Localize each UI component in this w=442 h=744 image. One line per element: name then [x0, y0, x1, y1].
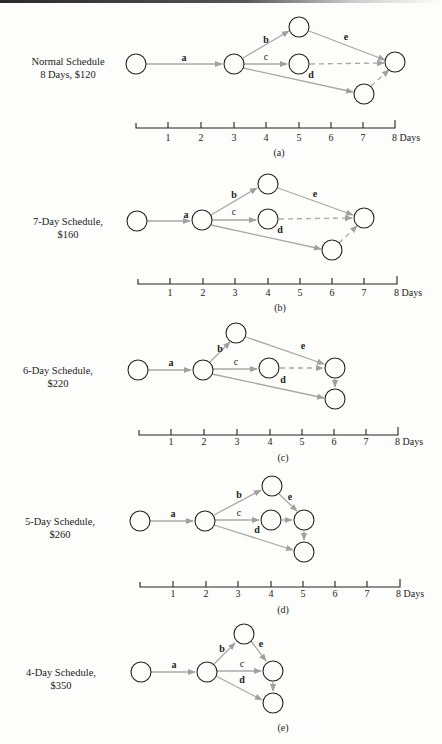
node-end [325, 358, 345, 378]
panel-c-title-line1: 6-Day Schedule, [23, 365, 93, 376]
tick-label: 5 [297, 132, 302, 143]
edge-label-d: d [254, 524, 260, 535]
edge-label-d: d [280, 374, 286, 385]
node-start [128, 360, 148, 380]
tick-label: 7 [365, 588, 370, 599]
tick-label: 8 Days [396, 588, 424, 599]
panel-a-title-line1: Normal Schedule [31, 56, 105, 67]
tick-label: 2 [201, 287, 206, 298]
node-2 [224, 54, 244, 74]
tick-label: 4 [264, 132, 269, 143]
time-axis-b: 1 2 3 4 5 6 7 8 Days [138, 276, 422, 298]
node-end [354, 208, 374, 228]
edge-label-b: b [219, 643, 225, 654]
time-axis-d: 1 2 3 4 5 6 7 8 Days [140, 579, 424, 599]
tick-label: 6 [333, 588, 338, 599]
node-end [263, 661, 283, 681]
panel-e: 4-Day Schedule, $350 a b c d e (e) [26, 624, 289, 734]
edge-label-e: e [259, 638, 264, 649]
node-bottom [294, 542, 314, 562]
tick-label: 8 Days [395, 436, 423, 447]
tick-label: 5 [300, 436, 305, 447]
edge-label-d: d [239, 674, 245, 685]
tick-label: 1 [168, 287, 173, 298]
tick-label: 6 [330, 287, 335, 298]
node-2 [192, 210, 212, 230]
edge-label-b: b [263, 34, 269, 45]
tick-label: 3 [235, 436, 240, 447]
edge-label-b: b [236, 489, 242, 500]
tick-label: 4 [268, 436, 273, 447]
tick-label: 5 [298, 287, 303, 298]
edge-label-e: e [313, 188, 318, 199]
tick-label: 4 [266, 287, 271, 298]
edge-label-d: d [277, 224, 283, 235]
node-bottom [263, 693, 283, 713]
edge-label-e: e [288, 491, 293, 502]
schedule-crashing-diagram: Normal Schedule 8 Days, $120 a b c d e 1 [0, 0, 442, 744]
tick-label: 7 [361, 132, 366, 143]
time-axis-c: 1 2 3 4 5 6 7 8 Days [139, 427, 423, 447]
node-2 [197, 662, 217, 682]
node-start [131, 662, 151, 682]
tick-label: 3 [236, 588, 241, 599]
node-mid [261, 510, 281, 530]
panel-b-title-line2: $160 [58, 229, 79, 240]
node-start [126, 54, 146, 74]
tick-label: 1 [169, 436, 174, 447]
dummy-edge-mid-end [279, 218, 352, 219]
node-bottom [322, 240, 342, 260]
tick-label: 4 [269, 588, 274, 599]
node-top [234, 624, 254, 644]
tick-label: 1 [166, 132, 171, 143]
tick-label: 2 [204, 588, 209, 599]
dummy-edge-mid-end [310, 63, 384, 64]
tick-label: 1 [171, 588, 176, 599]
panel-e-title-line2: $350 [51, 680, 72, 691]
node-bottom [325, 389, 345, 409]
panel-c: 6-Day Schedule, $220 a b c d e 1 2 [23, 323, 423, 464]
node-bottom [354, 84, 374, 104]
node-2 [195, 511, 215, 531]
tick-label: 8 Days [394, 287, 422, 298]
node-mid [258, 209, 278, 229]
node-top [258, 174, 278, 194]
time-axis-a: 1 2 3 4 5 6 7 8 Days [136, 120, 420, 143]
panel-e-caption: (e) [277, 722, 288, 734]
node-2 [193, 360, 213, 380]
edge-label-a: a [169, 357, 174, 368]
node-top [262, 476, 282, 496]
node-top [226, 323, 246, 343]
panel-e-title-line1: 4-Day Schedule, [26, 667, 96, 678]
node-start [130, 511, 150, 531]
panel-c-title-line2: $220 [48, 378, 69, 389]
node-mid [289, 54, 309, 74]
node-mid [259, 358, 279, 378]
tick-label: 6 [329, 132, 334, 143]
tick-label: 2 [199, 132, 204, 143]
node-top [289, 17, 309, 37]
panel-d-caption: (d) [277, 604, 289, 616]
node-end [294, 510, 314, 530]
tick-label: 5 [301, 588, 306, 599]
tick-label: 8 Days [392, 132, 420, 143]
tick-label: 3 [233, 287, 238, 298]
edge-e [246, 337, 324, 364]
tick-label: 7 [364, 436, 369, 447]
panel-a-caption: (a) [273, 147, 284, 159]
edge-label-a: a [184, 209, 189, 220]
edge-label-c: c [237, 507, 242, 518]
tick-label: 7 [362, 287, 367, 298]
panel-d-title-line2: $260 [50, 529, 71, 540]
panel-a-title-line2: 8 Days, $120 [40, 69, 96, 80]
dummy-edge-bottom-end [371, 70, 389, 86]
panel-a: Normal Schedule 8 Days, $120 a b c d e 1 [31, 17, 420, 159]
edge-label-a: a [171, 508, 176, 519]
edge-label-b: b [231, 189, 237, 200]
node-start [127, 211, 147, 231]
edge-label-c: c [232, 206, 237, 217]
panel-b: 7-Day Schedule, $160 a b c d e 1 2 [33, 174, 422, 314]
edge-label-e: e [344, 31, 349, 42]
edge-label-a: a [172, 659, 177, 670]
node-end [385, 52, 405, 72]
